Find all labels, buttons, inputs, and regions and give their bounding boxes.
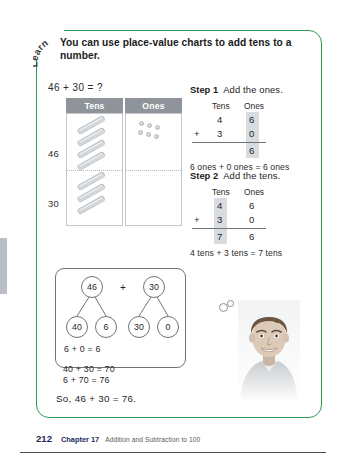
step-2-addend1-tens: 4	[217, 200, 222, 211]
step-2-title-row: Step 2Add the tens.	[190, 170, 314, 181]
step-1-addend2-ones: 0	[249, 128, 254, 139]
step-2-sum-rule	[192, 228, 266, 229]
step-2-vertical-sum: 4 6 + 3 0 7 6	[190, 199, 314, 246]
bond-part-right-ones: 0	[157, 316, 179, 338]
step-1-header-tens: Tens	[212, 101, 230, 111]
bond-whole-left: 46	[81, 276, 103, 298]
thought-bubble-small-icon	[227, 300, 234, 307]
step-2-column-headers: Tens Ones	[190, 187, 314, 198]
bond-equation-3: 6 + 70 = 76	[63, 375, 110, 385]
step-1-header-ones: Ones	[244, 101, 264, 111]
ones-unit	[146, 132, 151, 137]
column-header-tens: Tens	[66, 98, 123, 113]
step-1-sum-ones: 6	[249, 145, 254, 156]
step-1-sum-rule	[192, 142, 266, 143]
tens-column	[66, 113, 123, 226]
textbook-page: Learn You can use place-value charts to …	[0, 0, 346, 468]
row-divider	[126, 170, 181, 171]
student-photo	[238, 300, 300, 402]
step-1-vertical-sum: 4 6 + 3 0 6	[190, 113, 314, 160]
step-2-sum-tens: 7	[217, 231, 222, 242]
ones-unit	[155, 125, 160, 130]
step-1-column-headers: Tens Ones	[190, 101, 314, 112]
bond-operator: +	[120, 282, 126, 293]
ones-unit	[138, 130, 143, 135]
place-value-body	[66, 113, 182, 226]
page-number: 212	[36, 433, 52, 444]
chapter-title: Addition and Subtraction to 100	[105, 436, 200, 443]
bond-part-left-tens: 40	[66, 316, 88, 338]
step-1-operator: +	[194, 128, 200, 139]
step-1-title-row: Step 1Add the ones.	[190, 84, 314, 95]
bond-equation-1: 6 + 0 = 6	[64, 344, 101, 354]
bond-equation-2: 40 + 30 = 70	[63, 364, 115, 374]
place-value-header-row: Tens Ones	[66, 98, 182, 113]
lesson-heading: You can use place-value charts to add te…	[60, 36, 300, 63]
learn-badge-label: Learn	[33, 37, 50, 68]
row-label-46: 46	[48, 148, 59, 159]
step-1-addend1-tens: 4	[217, 114, 222, 125]
step-2-header-tens: Tens	[212, 187, 230, 197]
bond-whole-right: 30	[143, 276, 165, 298]
number-bond-box: 46 + 30 40 6 30 0 6 + 0 = 6	[55, 268, 186, 368]
step-1: Step 1Add the ones. Tens Ones 4 6 + 3 0 …	[190, 84, 314, 172]
step-2-sum-ones: 6	[249, 231, 254, 242]
step-2-addend1-ones: 6	[249, 200, 254, 211]
bond-part-right-tens: 30	[128, 316, 150, 338]
step-1-addend1-ones: 6	[249, 114, 254, 125]
column-header-ones: Ones	[125, 98, 182, 113]
page-footer: 212 Chapter 17 Addition and Subtraction …	[36, 433, 200, 444]
ones-unit	[147, 123, 152, 128]
step-2-operator: +	[194, 214, 200, 225]
step-2-addend2-tens: 3	[217, 214, 222, 225]
page-edge-tab	[0, 238, 7, 294]
svg-text:Learn: Learn	[33, 37, 50, 68]
bond-part-left-ones: 6	[95, 316, 117, 338]
step-2-addend2-ones: 0	[249, 214, 254, 225]
chapter-number: Chapter 17	[61, 435, 99, 444]
conclusion-statement: So, 46 + 30 = 76.	[56, 393, 136, 404]
problem-statement: 46 + 30 = ?	[48, 82, 103, 93]
ones-unit	[139, 121, 144, 126]
row-label-30: 30	[48, 198, 59, 209]
step-2-header-ones: Ones	[244, 187, 264, 197]
step-2-description: Add the tens.	[223, 170, 280, 181]
step-2-note: 4 tens + 3 tens = 7 tens	[190, 248, 314, 258]
step-2-label: Step 2	[190, 170, 218, 181]
step-1-addend2-tens: 3	[217, 128, 222, 139]
ones-unit	[154, 134, 159, 139]
place-value-chart: Tens Ones	[66, 98, 182, 226]
ones-column	[125, 113, 182, 226]
step-2: Step 2Add the tens. Tens Ones 4 6 + 3 0 …	[190, 170, 314, 258]
step-1-label: Step 1	[190, 84, 218, 95]
footer-divider	[20, 452, 326, 453]
row-divider	[67, 170, 122, 171]
step-1-description: Add the ones.	[223, 84, 283, 95]
